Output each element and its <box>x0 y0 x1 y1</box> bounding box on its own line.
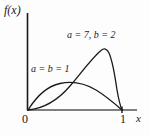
x-tick-label-one: 1 <box>120 113 126 125</box>
curve-a-7-b-2 <box>28 49 122 110</box>
y-axis-label: f(x) <box>4 4 21 16</box>
beta-distribution-figure: f(x) x 0 1 a = 7, b = 2 a = b = 1 <box>0 0 150 135</box>
curve-annotation-a7-b2: a = 7, b = 2 <box>67 30 116 40</box>
x-axis-label: x <box>136 113 141 124</box>
curve-annotation-a1-b1: a = b = 1 <box>31 64 70 74</box>
curve-a-b-1 <box>28 82 122 110</box>
x-tick-label-zero: 0 <box>22 113 28 125</box>
